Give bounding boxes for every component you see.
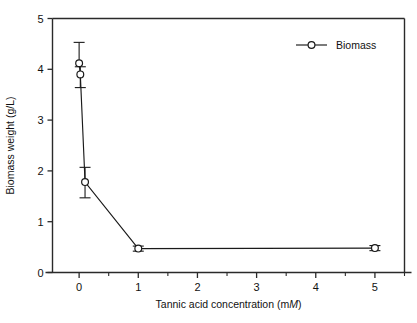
y-tick-label: 1 <box>37 216 43 228</box>
data-point-marker <box>76 60 83 67</box>
y-tick-label: 3 <box>37 114 43 126</box>
x-tick-label: 4 <box>313 281 319 293</box>
data-point-marker <box>77 71 84 78</box>
y-tick-label: 2 <box>37 165 43 177</box>
biomass-line-chart: 012345 012345 Biomass Biomass weight (g/… <box>0 0 417 323</box>
x-axis-title-prefix: Tannic acid concentration (m <box>156 298 290 310</box>
data-point-marker <box>372 245 379 252</box>
legend-marker-icon <box>308 42 315 49</box>
chart-figure: 012345 012345 Biomass Biomass weight (g/… <box>0 0 417 323</box>
y-axis-title: Biomass weight (g/L) <box>4 96 16 194</box>
data-point-marker <box>82 179 89 186</box>
x-axis-title-unit-italic: M <box>289 298 298 310</box>
data-point-marker <box>135 245 142 252</box>
y-tick-label: 5 <box>37 13 43 25</box>
x-tick-label: 0 <box>76 281 82 293</box>
x-tick-label: 3 <box>254 281 260 293</box>
y-tick-label: 4 <box>37 63 43 75</box>
x-axis-title: Tannic acid concentration (mM) <box>156 298 302 310</box>
x-tick-label: 1 <box>135 281 141 293</box>
x-tick-label: 2 <box>194 281 200 293</box>
legend-label-biomass: Biomass <box>336 39 376 51</box>
x-tick-label: 5 <box>372 281 378 293</box>
x-axis-title-suffix: ) <box>298 298 302 310</box>
y-tick-label: 0 <box>37 267 43 279</box>
